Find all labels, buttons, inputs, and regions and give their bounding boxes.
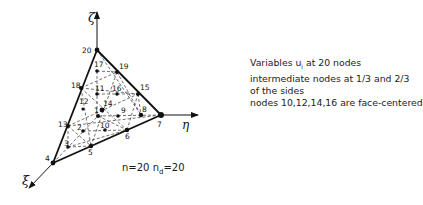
svg-text:8: 8 bbox=[142, 105, 147, 114]
svg-text:6: 6 bbox=[125, 132, 130, 141]
svg-text:15: 15 bbox=[140, 83, 150, 92]
caption-text: Variables ui at 20 nodes intermediate no… bbox=[250, 57, 423, 109]
caption-line-3: of the sides bbox=[250, 85, 423, 97]
xi-axis bbox=[29, 163, 53, 188]
label-node-20: 20 bbox=[82, 46, 92, 55]
xi-label: ξ bbox=[22, 173, 30, 188]
label-node-4: 4 bbox=[45, 154, 50, 163]
eta-label: η bbox=[182, 118, 190, 132]
zeta-label: ζ bbox=[88, 10, 96, 25]
node-labels: 20 17 19 18 11 16 15 12 14 1 9 8 7 13 2 … bbox=[45, 46, 162, 163]
svg-text:12: 12 bbox=[79, 97, 89, 106]
caption-line-2: intermediate nodes at 1/3 and 2/3 bbox=[250, 73, 423, 85]
caption-line-4: nodes 10,12,14,16 are face-centered bbox=[250, 97, 423, 109]
svg-text:10: 10 bbox=[100, 121, 110, 130]
svg-text:13: 13 bbox=[58, 120, 68, 129]
svg-text:1: 1 bbox=[94, 106, 99, 115]
svg-text:19: 19 bbox=[119, 62, 129, 71]
svg-text:11: 11 bbox=[95, 84, 105, 93]
svg-text:3: 3 bbox=[64, 139, 69, 148]
svg-text:17: 17 bbox=[94, 60, 104, 69]
svg-text:2: 2 bbox=[77, 123, 82, 132]
svg-text:16: 16 bbox=[112, 84, 122, 93]
svg-text:5: 5 bbox=[88, 148, 93, 157]
node-count-label: n=20 nd=20 bbox=[122, 162, 185, 176]
svg-text:14: 14 bbox=[103, 99, 113, 108]
caption-line-1: Variables ui at 20 nodes bbox=[250, 57, 423, 73]
label-node-7: 7 bbox=[157, 120, 162, 129]
svg-text:9: 9 bbox=[121, 106, 126, 115]
svg-text:18: 18 bbox=[71, 81, 81, 90]
